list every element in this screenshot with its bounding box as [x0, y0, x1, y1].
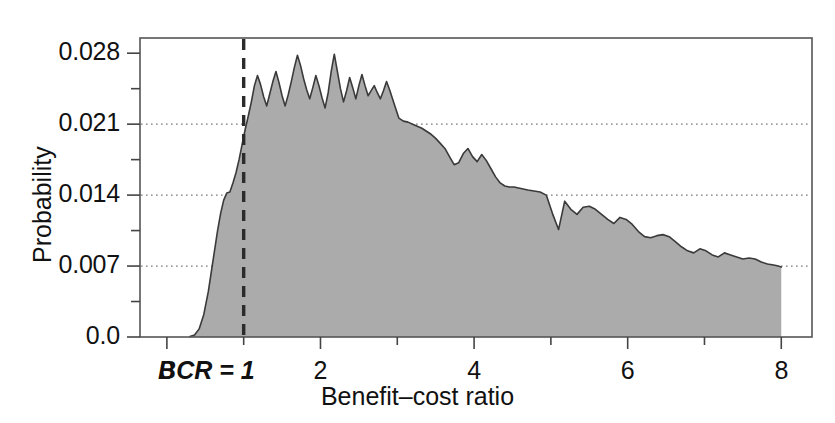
x-tick-label: 8: [741, 356, 821, 385]
y-tick-label: 0.021: [0, 108, 120, 137]
x-tick-label: 6: [588, 356, 668, 385]
x-tick-label: 0: [127, 356, 207, 385]
y-tick-label: 0.014: [0, 179, 120, 208]
x-tick-label: 4: [434, 356, 514, 385]
y-tick-label: 0.0: [0, 321, 120, 350]
x-tick-label: 2: [280, 356, 360, 385]
x-axis-label: Benefit–cost ratio: [0, 382, 835, 411]
y-tick-label: 0.007: [0, 250, 120, 279]
y-axis-ticks: [127, 53, 140, 337]
y-tick-label: 0.028: [0, 37, 120, 66]
figure-container: Probability Benefit–cost ratio BCR = 1 0…: [0, 0, 835, 423]
x-axis-ticks: [167, 337, 781, 349]
